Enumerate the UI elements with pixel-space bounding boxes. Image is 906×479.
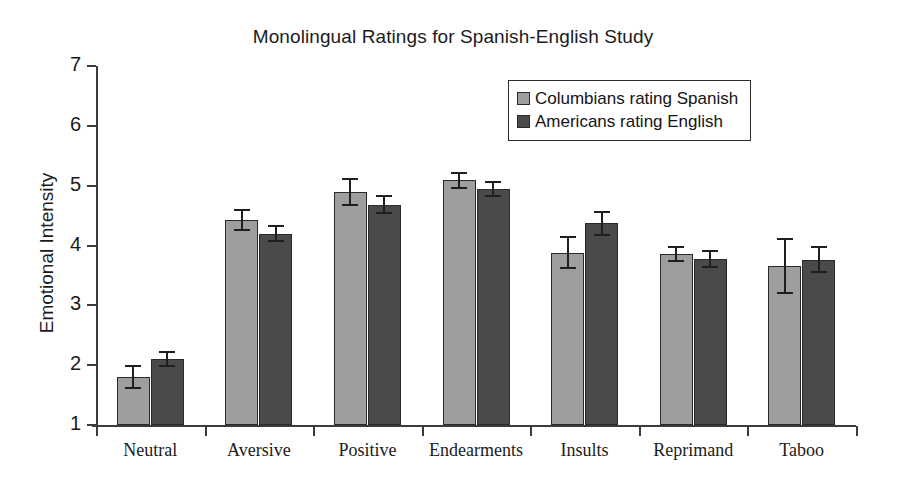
error-cap-upper — [777, 238, 793, 240]
error-bar — [349, 179, 351, 205]
bar — [259, 234, 292, 425]
error-cap-upper — [268, 225, 284, 227]
error-cap-lower — [485, 195, 501, 197]
bar — [802, 260, 835, 425]
error-cap-lower — [342, 204, 358, 206]
legend-item-americans: Americans rating English — [517, 110, 738, 133]
error-cap-lower — [594, 234, 610, 236]
error-cap-lower — [268, 240, 284, 242]
x-tick-0 — [96, 426, 98, 436]
error-cap-upper — [594, 211, 610, 213]
legend-swatch-light-icon — [517, 92, 530, 105]
error-bar — [241, 210, 243, 230]
x-tick-7 — [856, 426, 858, 436]
legend-label-americans: Americans rating English — [535, 112, 723, 132]
x-category-label-aversive: Aversive — [227, 440, 291, 461]
chart-figure: Monolingual Ratings for Spanish-English … — [0, 0, 906, 479]
error-cap-upper — [159, 351, 175, 353]
x-tick-6 — [747, 426, 749, 436]
error-cap-lower — [376, 212, 392, 214]
y-axis-label: Emotional Intensity — [36, 108, 58, 398]
y-tick-5: 5 — [87, 185, 96, 187]
x-category-label-insults: Insults — [561, 440, 609, 461]
error-cap-lower — [560, 267, 576, 269]
x-tick-1 — [205, 426, 207, 436]
error-bar — [458, 173, 460, 189]
y-tick-7: 7 — [87, 65, 96, 67]
x-tick-2 — [313, 426, 315, 436]
x-category-label-neutral: Neutral — [123, 440, 177, 461]
x-axis-line — [92, 425, 856, 427]
error-bar — [784, 239, 786, 293]
y-tick-6: 6 — [87, 125, 96, 127]
legend-swatch-dark-icon — [517, 115, 530, 128]
error-bar — [132, 366, 134, 388]
chart-legend: Columbians rating Spanish Americans rati… — [508, 80, 751, 141]
error-cap-lower — [234, 229, 250, 231]
error-cap-upper — [376, 195, 392, 197]
bar — [660, 254, 693, 425]
error-cap-lower — [668, 260, 684, 262]
y-tick-4: 4 — [87, 245, 96, 247]
bar — [334, 192, 367, 425]
error-cap-upper — [451, 172, 467, 174]
x-tick-4 — [530, 426, 532, 436]
y-tick-label-1: 1 — [70, 412, 81, 434]
bar — [368, 205, 401, 425]
bar — [694, 259, 727, 425]
legend-item-columbians: Columbians rating Spanish — [517, 87, 738, 110]
y-tick-label-6: 6 — [70, 113, 81, 135]
error-bar — [166, 352, 168, 366]
x-category-label-endearments: Endearments — [429, 440, 523, 461]
y-axis-line — [96, 66, 98, 426]
error-cap-lower — [811, 271, 827, 273]
x-category-label-positive: Positive — [338, 440, 396, 461]
bar — [225, 220, 258, 425]
error-cap-upper — [560, 236, 576, 238]
legend-label-columbians: Columbians rating Spanish — [535, 89, 738, 109]
error-bar — [492, 182, 494, 196]
y-tick-label-3: 3 — [70, 292, 81, 314]
error-bar — [601, 212, 603, 235]
x-category-label-taboo: Taboo — [779, 440, 824, 461]
y-tick-label-4: 4 — [70, 233, 81, 255]
error-cap-lower — [125, 387, 141, 389]
error-cap-upper — [125, 365, 141, 367]
y-tick-label-5: 5 — [70, 173, 81, 195]
y-tick-label-2: 2 — [70, 352, 81, 374]
error-bar — [818, 247, 820, 272]
x-category-label-reprimand: Reprimand — [653, 440, 733, 461]
y-tick-label-7: 7 — [70, 53, 81, 75]
bar — [151, 359, 184, 425]
error-bar — [709, 251, 711, 267]
error-cap-lower — [702, 266, 718, 268]
error-cap-lower — [159, 365, 175, 367]
error-bar — [275, 226, 277, 242]
error-cap-lower — [777, 292, 793, 294]
bar — [551, 253, 584, 425]
bar — [477, 189, 510, 425]
y-tick-3: 3 — [87, 304, 96, 306]
y-tick-1: 1 — [87, 424, 96, 426]
error-cap-upper — [485, 181, 501, 183]
error-cap-upper — [668, 246, 684, 248]
x-tick-5 — [639, 426, 641, 436]
error-bar — [675, 247, 677, 261]
y-tick-2: 2 — [87, 364, 96, 366]
error-bar — [567, 237, 569, 268]
x-tick-3 — [422, 426, 424, 436]
error-cap-upper — [811, 246, 827, 248]
bar — [443, 180, 476, 425]
error-cap-upper — [702, 250, 718, 252]
error-cap-upper — [342, 178, 358, 180]
bar — [585, 223, 618, 425]
chart-title: Monolingual Ratings for Spanish-English … — [0, 26, 906, 48]
error-cap-upper — [234, 209, 250, 211]
error-bar — [383, 196, 385, 213]
error-cap-lower — [451, 187, 467, 189]
